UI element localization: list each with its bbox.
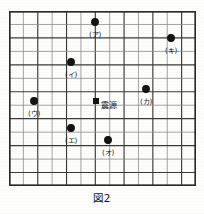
observation-point-g <box>105 137 112 144</box>
figure-2-seismic-grid: (ア)(キ)(イ)(カ)(ウ)(エ)(オ)震源 図2 <box>0 0 204 214</box>
observation-point-b <box>168 35 175 42</box>
figure-caption: 図2 <box>0 190 204 205</box>
observation-point-f <box>68 125 75 132</box>
epicenter-marker <box>93 98 99 104</box>
observation-point-label-d: (カ) <box>140 98 152 106</box>
observation-point-label-a: (ア) <box>89 31 101 39</box>
observation-point-e <box>31 98 38 105</box>
observation-point-label-f: (エ) <box>65 137 77 145</box>
observation-point-label-g: (オ) <box>102 149 114 157</box>
observation-point-label-b: (キ) <box>165 47 177 55</box>
epicenter-label: 震源 <box>101 101 118 110</box>
observation-point-label-c: (イ) <box>65 71 77 79</box>
observation-point-d <box>143 86 150 93</box>
grid-map: (ア)(キ)(イ)(カ)(ウ)(エ)(オ)震源 <box>9 11 196 186</box>
observation-point-a <box>92 19 99 26</box>
observation-point-c <box>68 59 75 66</box>
observation-point-label-e: (ウ) <box>28 110 40 118</box>
